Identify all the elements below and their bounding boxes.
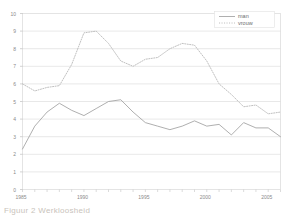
chart-canvas <box>0 0 286 220</box>
y-axis-tick-label: 2 <box>4 151 16 157</box>
y-axis-tick-label: 7 <box>4 63 16 69</box>
x-axis-tick-label: 1995 <box>138 194 149 200</box>
x-axis-tick-label: 2000 <box>200 194 211 200</box>
y-axis-tick-label: 8 <box>4 46 16 52</box>
y-axis-tick-label: 9 <box>4 28 16 34</box>
legend-label-vrouw: vrouw <box>238 20 253 26</box>
x-axis-ticks <box>23 190 281 193</box>
legend-label-man: man <box>238 13 249 19</box>
x-axis-tick-label: 2005 <box>261 194 272 200</box>
series-line-man <box>23 100 281 149</box>
y-axis-tick-label: 5 <box>4 99 16 105</box>
figure-caption: Figuur 2 Werkloosheid <box>4 206 282 220</box>
y-axis-ticks <box>20 14 23 190</box>
y-axis-tick-label: 4 <box>4 116 16 122</box>
line-chart: 012345678910 19851990199520002005 man vr… <box>0 0 286 220</box>
y-axis-tick-label: 3 <box>4 134 16 140</box>
gridlines <box>23 31 281 172</box>
x-axis-tick-label: 1985 <box>16 194 27 200</box>
y-axis-tick-label: 0 <box>4 187 16 193</box>
y-axis-tick-label: 10 <box>4 11 16 17</box>
x-axis-tick-label: 1990 <box>77 194 88 200</box>
y-axis-tick-label: 1 <box>4 169 16 175</box>
y-axis-tick-label: 6 <box>4 81 16 87</box>
